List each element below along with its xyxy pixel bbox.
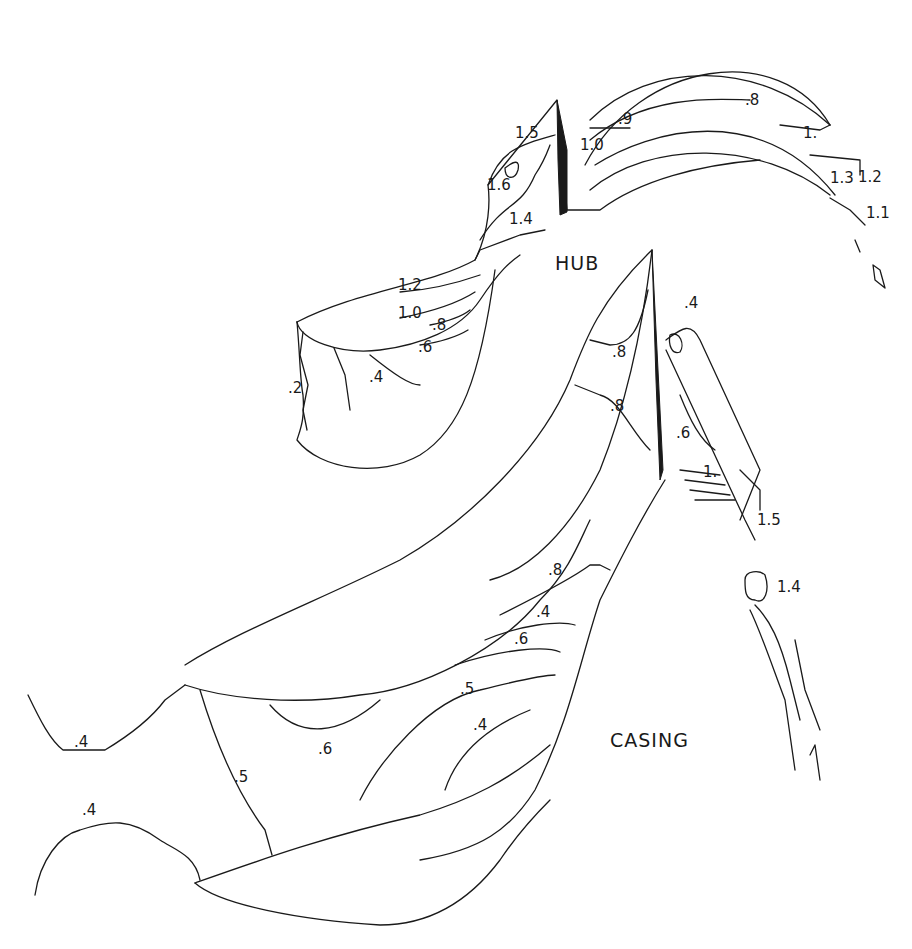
label-center-8a: .8 [612,343,626,361]
right-blade [666,328,820,780]
label-arc-1: 1. [803,124,817,142]
lower-contour-4a [485,623,575,640]
label-right-1-5: 1.5 [757,511,781,529]
casing-label: CASING [610,729,689,751]
hub-label: HUB [555,252,599,274]
upper-left-blade [297,270,495,468]
label-ul-4: .4 [369,368,383,386]
label-left-4-lower: .4 [82,801,96,819]
contour-drawing: HUB CASING 1.5 1.6 1.4 1.2 1.0 .8 .6 .4 … [0,0,912,949]
label-lower-4b: .4 [473,716,487,734]
lower-blade-left-outline [185,520,590,700]
lower-contour-4b [445,710,530,790]
contour-4-line [334,348,350,410]
left-contour-4-lower [35,823,200,895]
label-lower-8: .8 [548,561,562,579]
label-arc-1-0: 1.0 [580,136,604,154]
upper-left-blade-body [297,270,495,468]
arc-inner-4 [590,153,830,195]
arc-inner-2 [590,99,750,140]
center-contour-8-upper [590,290,648,345]
label-ul-2: .2 [288,379,302,397]
label-right-4: .4 [684,294,698,312]
label-top-1-4: 1.4 [509,210,533,228]
label-right-1: 1. [703,463,717,481]
label-top-1-5: 1.5 [515,124,539,142]
contour-labels: HUB CASING 1.5 1.6 1.4 1.2 1.0 .8 .6 .4 … [74,91,890,819]
left-region [28,685,200,895]
label-lower-6b: .6 [318,740,332,758]
lower-blade-bottom [195,745,550,883]
label-arc-9: .9 [618,110,632,128]
label-ul-1-0: 1.0 [398,304,422,322]
lower-blade-right-outline [420,480,665,860]
center-contour-8-lower [575,385,650,450]
label-arc-8: .8 [745,91,759,109]
label-right-1-4: 1.4 [777,578,801,596]
label-lower-5a: .5 [460,680,474,698]
label-right-6: .6 [676,424,690,442]
label-arc-1-2: 1.2 [858,168,882,186]
contour-hub-shelf [475,230,545,260]
arc-inner-3 [595,131,835,195]
label-lower-5b: .5 [234,768,248,786]
arc-debris-1 [855,240,860,252]
label-left-4-upper: .4 [74,733,88,751]
label-lower-4a: .4 [536,603,550,621]
label-lower-6a: .6 [514,630,528,648]
lower-contour-6b [270,700,380,729]
label-ul-1-2: 1.2 [398,276,422,294]
arc-debris-2 [873,265,885,288]
lower-blade-tail [195,800,550,925]
right-trailing-2 [750,610,795,770]
contour-figure: HUB CASING 1.5 1.6 1.4 1.2 1.0 .8 .6 .4 … [0,0,912,949]
contour-1-6-loop [505,162,518,177]
label-arc-1-3: 1.3 [830,169,854,187]
arc-contour-11 [830,198,865,225]
label-top-1-6: 1.6 [487,176,511,194]
right-blade-inner [666,350,755,540]
label-ul-6: .6 [418,338,432,356]
lower-casing-blade [185,480,665,925]
lower-contour-5a [360,675,555,800]
right-trailing-arrow [810,745,820,780]
label-arc-1-1: 1.1 [866,204,890,222]
center-blade-dark-edge [652,250,663,480]
top-blade-lower-edge [297,255,520,351]
top-blade-dark-edge [557,100,567,215]
center-blade-right [490,250,652,580]
right-contour-14-loop [745,572,767,601]
right-trailing-1 [755,605,800,720]
label-ul-8: .8 [432,316,446,334]
label-center-8b: .8 [610,397,624,415]
left-contour-4-upper [28,685,185,750]
